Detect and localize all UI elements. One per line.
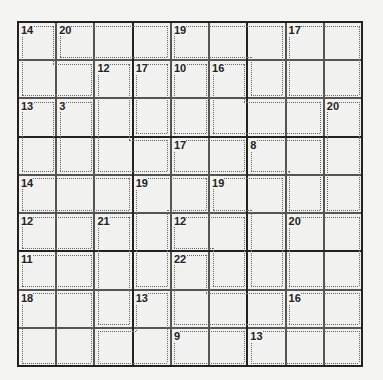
cage-sum-label: 9 <box>174 331 180 342</box>
sudoku-cell[interactable] <box>94 175 132 213</box>
sudoku-cell[interactable] <box>94 251 132 289</box>
sudoku-cell[interactable] <box>18 60 56 98</box>
sudoku-cell[interactable] <box>209 290 247 328</box>
sudoku-cell[interactable] <box>94 98 132 136</box>
sudoku-cell[interactable] <box>56 328 94 366</box>
sudoku-cell[interactable] <box>324 213 362 251</box>
sudoku-cell[interactable] <box>94 328 132 366</box>
sudoku-cell[interactable] <box>286 251 324 289</box>
cage-sum-label: 13 <box>136 293 148 304</box>
sudoku-cell[interactable] <box>247 175 285 213</box>
cage-sum-label: 12 <box>21 216 33 227</box>
sudoku-cell[interactable] <box>286 60 324 98</box>
sudoku-cell[interactable] <box>286 137 324 175</box>
sudoku-cell[interactable] <box>324 137 362 175</box>
cage-sum-label: 16 <box>212 63 224 74</box>
sudoku-cell[interactable] <box>94 290 132 328</box>
sudoku-cell[interactable] <box>56 213 94 251</box>
cage-sum-label: 21 <box>97 216 109 227</box>
sudoku-cell[interactable] <box>324 251 362 289</box>
cage-sum-label: 19 <box>174 25 186 36</box>
sudoku-cell[interactable] <box>56 290 94 328</box>
cage-sum-label: 12 <box>174 216 186 227</box>
sudoku-cell[interactable] <box>171 175 209 213</box>
sudoku-cell[interactable] <box>247 60 285 98</box>
cage-sum-label: 16 <box>289 293 301 304</box>
sudoku-cell[interactable] <box>133 98 171 136</box>
sudoku-cell[interactable] <box>209 251 247 289</box>
sudoku-cell[interactable] <box>209 98 247 136</box>
sudoku-cell[interactable] <box>324 290 362 328</box>
sudoku-cell[interactable] <box>56 251 94 289</box>
sudoku-cell[interactable] <box>286 328 324 366</box>
cage-sum-label: 18 <box>21 293 33 304</box>
sudoku-cell[interactable] <box>94 137 132 175</box>
cage-sum-label: 20 <box>327 101 339 112</box>
sudoku-cell[interactable] <box>324 175 362 213</box>
sudoku-cell[interactable] <box>18 137 56 175</box>
sudoku-cell[interactable] <box>18 328 56 366</box>
sudoku-cell[interactable] <box>209 328 247 366</box>
sudoku-cell[interactable] <box>209 137 247 175</box>
sudoku-cell[interactable] <box>133 328 171 366</box>
sudoku-cell[interactable] <box>133 251 171 289</box>
sudoku-cell[interactable] <box>324 60 362 98</box>
cage-sum-label: 11 <box>21 254 33 265</box>
cage-sum-label: 22 <box>174 254 186 265</box>
cage-sum-label: 17 <box>289 25 301 36</box>
cage-sum-label: 13 <box>21 101 33 112</box>
sudoku-cell[interactable] <box>133 22 171 60</box>
cage-sum-label: 20 <box>289 216 301 227</box>
cage-sum-label: 14 <box>21 178 33 189</box>
cage-sum-label: 17 <box>174 140 186 151</box>
sudoku-cell[interactable] <box>171 290 209 328</box>
sudoku-cell[interactable] <box>247 290 285 328</box>
cage-sum-label: 12 <box>97 63 109 74</box>
sudoku-cell[interactable] <box>209 22 247 60</box>
killer-sudoku-board: 1420191712171016133201781419191221122011… <box>18 22 362 366</box>
cage-sum-label: 10 <box>174 63 186 74</box>
sudoku-cell[interactable] <box>286 98 324 136</box>
sudoku-cell[interactable] <box>247 22 285 60</box>
cage-sum-label: 20 <box>59 25 71 36</box>
sudoku-cell[interactable] <box>247 213 285 251</box>
sudoku-cell[interactable] <box>286 175 324 213</box>
sudoku-cell[interactable] <box>324 22 362 60</box>
sudoku-cell[interactable] <box>247 251 285 289</box>
sudoku-cell[interactable] <box>171 98 209 136</box>
cage-sum-label: 17 <box>136 63 148 74</box>
sudoku-cell[interactable] <box>209 213 247 251</box>
cage-sum-label: 3 <box>59 101 65 112</box>
sudoku-cell[interactable] <box>56 175 94 213</box>
cage-sum-label: 19 <box>136 178 148 189</box>
cage-sum-label: 13 <box>250 331 262 342</box>
cage-sum-label: 14 <box>21 25 33 36</box>
sudoku-cell[interactable] <box>56 60 94 98</box>
sudoku-cell[interactable] <box>56 137 94 175</box>
sudoku-cell[interactable] <box>94 22 132 60</box>
sudoku-cell[interactable] <box>133 213 171 251</box>
cage-sum-label: 19 <box>212 178 224 189</box>
sudoku-cell[interactable] <box>247 98 285 136</box>
cage-sum-label: 8 <box>250 140 256 151</box>
sudoku-cell[interactable] <box>324 328 362 366</box>
sudoku-cell[interactable] <box>133 137 171 175</box>
